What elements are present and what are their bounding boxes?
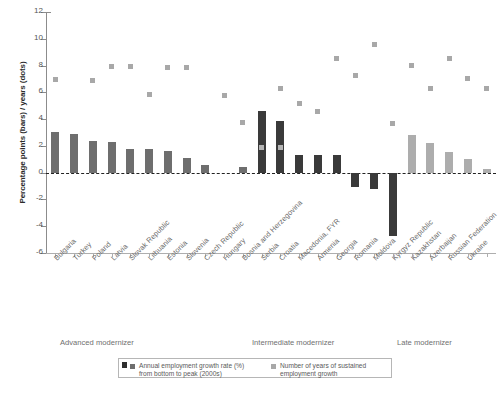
dot-marker [90, 78, 95, 83]
bar [164, 151, 172, 173]
dot-marker [372, 42, 377, 47]
bar [239, 167, 247, 173]
legend-label-dot: Number of years of sustained employment … [280, 362, 391, 377]
bar [389, 173, 397, 237]
group-label-intermediate: Intermediate modernizer [252, 338, 334, 347]
bar [408, 135, 416, 173]
dot-marker [390, 121, 395, 126]
y-tick-label: 6 [39, 86, 43, 95]
dot-marker [109, 64, 114, 69]
bar [426, 143, 434, 173]
dot-marker [128, 64, 133, 69]
bar [108, 142, 116, 173]
dot-marker [278, 145, 283, 150]
y-tick-label: 4 [39, 113, 43, 122]
bar [183, 158, 191, 173]
bar [145, 149, 153, 173]
legend-label-bar: Annual employment growth rate (%) from b… [139, 362, 257, 377]
group-label-late: Late modernizer [397, 338, 452, 347]
bar [258, 111, 266, 173]
dot-marker [447, 56, 452, 61]
y-tick-label: 12 [34, 6, 43, 15]
bar [70, 134, 78, 173]
dot-marker [53, 77, 58, 82]
y-tick-label: 8 [39, 60, 43, 69]
bar [126, 149, 134, 173]
legend-outer-swatch [122, 362, 127, 368]
dot-marker [334, 56, 339, 61]
bar [314, 155, 322, 172]
dot-marker [465, 76, 470, 81]
dot-marker [297, 101, 302, 106]
y-tick-label: 2 [39, 140, 43, 149]
zero-reference-line [46, 173, 496, 174]
dot-marker [428, 86, 433, 91]
chart-legend: Annual employment growth rate (%) from b… [118, 358, 392, 378]
legend-swatch-bar [130, 364, 135, 369]
bar [445, 152, 453, 173]
bar [295, 155, 303, 173]
bar [333, 155, 341, 173]
group-label-advanced: Advanced modernizer [60, 338, 134, 347]
bar [483, 169, 491, 173]
dot-marker [165, 65, 170, 70]
bar [89, 141, 97, 172]
y-tick-label: 10 [34, 33, 43, 42]
y-tick-label: -2 [36, 193, 43, 202]
bar [370, 173, 378, 190]
y-tick-label: -6 [36, 247, 43, 256]
dot-marker [222, 93, 227, 98]
y-axis-title: Percentage points (bars) / years (dots) [18, 33, 27, 233]
legend-item-years-sustained-growth: Number of years of sustained employment … [271, 362, 391, 377]
employment-growth-chart: Percentage points (bars) / years (dots) … [0, 0, 500, 401]
bar [464, 159, 472, 172]
dot-marker [278, 86, 283, 91]
dot-marker [315, 109, 320, 114]
dot-marker [184, 65, 189, 70]
dot-marker [147, 92, 152, 97]
dot-marker [353, 73, 358, 78]
y-tick-label: 0 [39, 167, 43, 176]
legend-swatch-dot [271, 364, 276, 369]
bar [351, 173, 359, 188]
dot-marker [259, 145, 264, 150]
dot-marker [240, 120, 245, 125]
bar [51, 132, 59, 173]
x-tick-mark [487, 253, 488, 257]
dot-marker [409, 63, 414, 68]
legend-item-annual-employment-growth: Annual employment growth rate (%) from b… [130, 362, 257, 377]
dot-marker [484, 86, 489, 91]
y-tick-label: -4 [36, 220, 43, 229]
bar [201, 165, 209, 172]
